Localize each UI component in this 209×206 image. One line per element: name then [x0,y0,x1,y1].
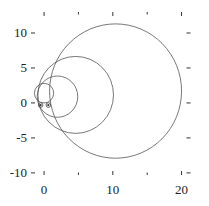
y-tick-label: 0 [21,95,28,110]
x-tick-label: 20 [175,182,188,197]
origin-markers [38,103,50,108]
axis-tick-labels: 01020-10-50510 [10,25,188,197]
y-tick-label: -10 [10,165,27,180]
x-tick-label: 0 [41,182,48,197]
chart-canvas: 01020-10-50510 [0,0,209,206]
y-tick-label: -5 [16,130,27,145]
circle-large [50,24,182,158]
y-tick-label: 10 [14,25,27,40]
circle-curves [34,24,181,158]
marker-dot [40,104,42,106]
marker-dot [47,104,49,106]
circle-small [37,76,78,117]
axis-ticks [31,12,191,175]
figure: 01020-10-50510 [0,0,209,206]
circle-medium [38,56,114,133]
x-tick-label: 10 [106,182,119,197]
y-tick-label: 5 [21,60,28,75]
